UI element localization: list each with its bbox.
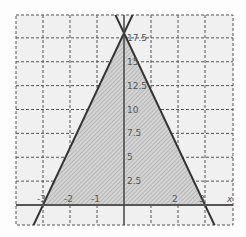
y-tick-label: 12.5 xyxy=(127,81,147,91)
y-tick-label: 15 xyxy=(127,57,138,67)
y-tick-label: 17.5 xyxy=(127,33,147,43)
x-tick-label: 3 xyxy=(199,194,205,204)
chart-plot: 2.557.51012.51517.5 -3-2-123 x xyxy=(0,0,246,237)
x-tick-label: 2 xyxy=(172,194,178,204)
y-tick-label: 2.5 xyxy=(127,176,141,186)
y-tick-label: 10 xyxy=(127,105,139,115)
x-tick-label: -1 xyxy=(91,194,100,204)
x-axis-label: x xyxy=(226,194,233,204)
y-tick-label: 5 xyxy=(127,152,133,162)
x-tick-label: -3 xyxy=(37,194,46,204)
y-tick-label: 7.5 xyxy=(127,128,141,138)
x-tick-label: -2 xyxy=(64,194,73,204)
